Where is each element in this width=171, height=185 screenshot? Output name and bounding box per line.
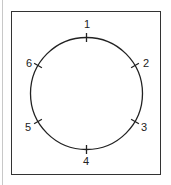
main-circle (31, 38, 143, 150)
label-3: 3 (141, 121, 147, 133)
label-1: 1 (84, 18, 90, 30)
label-4: 4 (83, 155, 89, 167)
circle-diagram: 1 2 3 4 5 6 (0, 0, 171, 185)
label-6: 6 (26, 57, 32, 69)
label-5: 5 (25, 121, 31, 133)
tick-mark-5 (34, 119, 42, 124)
tick-mark-2 (131, 63, 139, 68)
label-2: 2 (143, 57, 149, 69)
tick-mark-6 (34, 63, 42, 68)
tick-mark-3 (131, 119, 139, 124)
